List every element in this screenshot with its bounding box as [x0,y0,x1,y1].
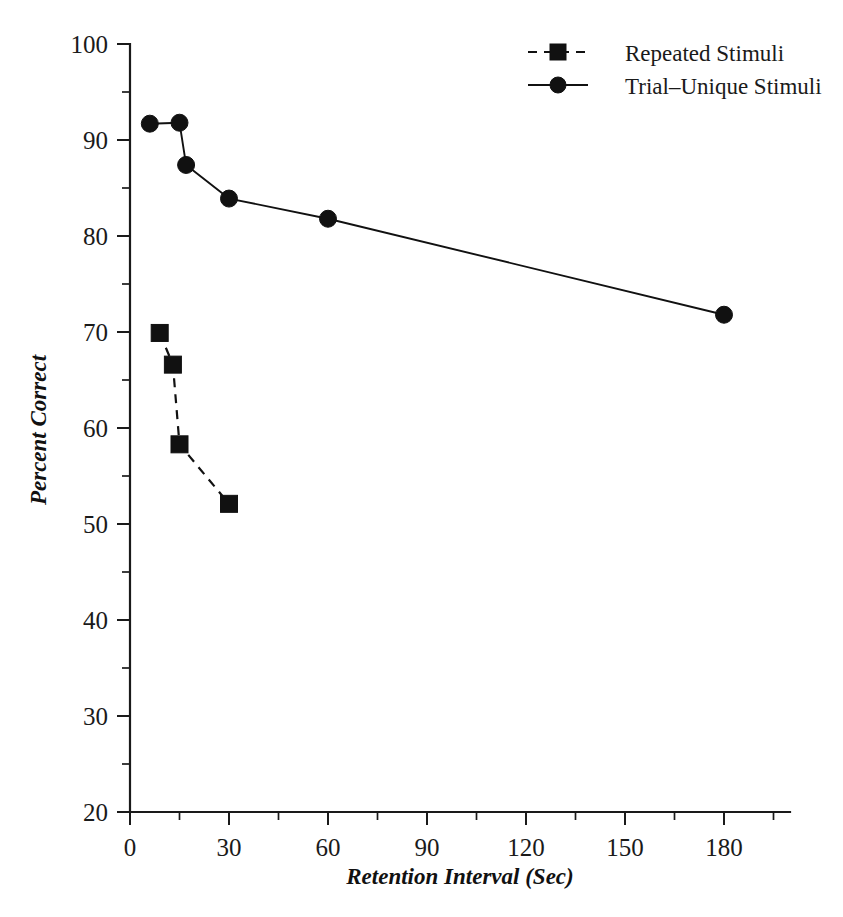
x-tick-label: 60 [316,834,341,861]
y-tick-label: 60 [83,415,108,442]
data-point-marker [716,306,733,323]
chart-figure: 2030405060708090100 0306090120150180 Ret… [0,0,843,917]
legend-marker [550,44,566,60]
y-tick-label: 90 [83,127,108,154]
data-point-marker [221,190,238,207]
data-point-marker [164,356,181,373]
data-point-marker [171,114,188,131]
data-point-marker [171,436,188,453]
y-tick-label: 70 [83,319,108,346]
data-point-marker [151,324,168,341]
y-axis-tick-labels: 2030405060708090100 [71,31,109,826]
x-axis-major-ticks [130,812,724,825]
x-axis-tick-labels: 0306090120150180 [124,834,743,861]
data-point-marker [141,115,158,132]
x-tick-label: 0 [124,834,137,861]
data-point-marker [320,210,337,227]
series-trial-unique [141,114,732,323]
x-axis-title: Retention Interval (Sec) [345,864,573,889]
series-repeated [151,324,237,512]
data-series-layer [141,114,732,512]
y-axis-title: Percent Correct [26,354,51,506]
legend-label: Trial–Unique Stimuli [625,74,822,99]
x-tick-label: 120 [507,834,545,861]
y-tick-label: 80 [83,223,108,250]
x-axis-minor-ticks [180,812,774,820]
y-axis-major-ticks [117,44,130,812]
data-point-marker [178,156,195,173]
series-polyline [150,123,724,315]
x-tick-label: 150 [606,834,644,861]
y-tick-label: 40 [83,607,108,634]
legend-entry[interactable]: Repeated Stimuli [528,41,784,66]
legend-marker [550,77,566,93]
y-tick-label: 50 [83,511,108,538]
chart-legend: Repeated StimuliTrial–Unique Stimuli [528,41,822,99]
axes-group [130,44,790,812]
legend-entry[interactable]: Trial–Unique Stimuli [528,74,822,99]
data-point-marker [221,495,238,512]
x-tick-label: 90 [415,834,440,861]
line-chart-canvas: 2030405060708090100 0306090120150180 Ret… [0,0,843,917]
x-tick-label: 180 [705,834,743,861]
y-tick-label: 20 [83,799,108,826]
y-tick-label: 100 [71,31,109,58]
x-tick-label: 30 [217,834,242,861]
y-tick-label: 30 [83,703,108,730]
legend-label: Repeated Stimuli [625,41,784,66]
